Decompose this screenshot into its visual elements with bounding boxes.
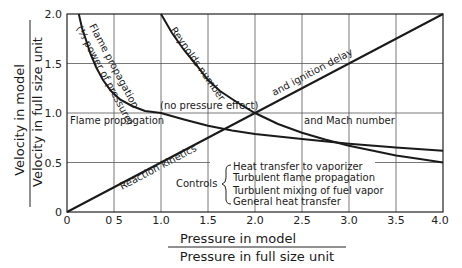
y-tick: 1.0 (45, 107, 63, 120)
controls-item: General heat transfer (233, 196, 342, 207)
flame-flat-label: Flame propagation (70, 115, 164, 126)
reynolds-label: Reynolds number (168, 25, 228, 104)
y-tick: 2.0 (45, 8, 63, 21)
controls-brace (222, 165, 231, 204)
chart: 0 0.5 1.0 1.5 2.0 0 0 5 1.0 1.5 2.0 2.5 … (0, 0, 462, 268)
x-axis: 0 0 5 1.0 1.5 2.0 2.5 3.0 3.5 4.0 (64, 214, 449, 227)
x-axis-title-denominator: Pressure in full size unit (180, 249, 334, 264)
x-tick: 2.5 (293, 214, 311, 227)
x-axis-title-numerator: Pressure in model (180, 231, 296, 246)
ignition-label: and ignition delay (270, 46, 355, 98)
controls-item: Heat transfer to vaporizer (233, 161, 364, 172)
y-axis-title-numerator: Velocity in model (12, 64, 27, 176)
y-axis: 0 0.5 1.0 1.5 2.0 (45, 8, 63, 219)
controls-label: Controls (176, 178, 217, 189)
x-tick: 1.0 (152, 214, 170, 227)
y-tick: 0.5 (45, 157, 63, 170)
controls-item: Turbulent flame propagation (232, 172, 375, 183)
y-tick: 0 (55, 206, 62, 219)
x-tick: 0 (64, 214, 71, 227)
x-tick: 1.5 (199, 214, 217, 227)
x-tick: 0 5 (105, 214, 123, 227)
x-tick: 3.0 (340, 214, 358, 227)
no-pressure-label: (no pressure effect) (160, 100, 259, 111)
y-tick: 1.5 (45, 58, 63, 71)
x-tick: 2.0 (246, 214, 264, 227)
x-tick: 3.5 (387, 214, 405, 227)
controls-item: Turbulent mixing of fuel vapor (232, 185, 384, 196)
flame-propagation-curve (79, 14, 443, 151)
y-axis-title-denominator: Velocity in full size unit (30, 37, 45, 187)
mach-label: and Mach number (304, 115, 396, 126)
x-tick: 4.0 (431, 214, 449, 227)
